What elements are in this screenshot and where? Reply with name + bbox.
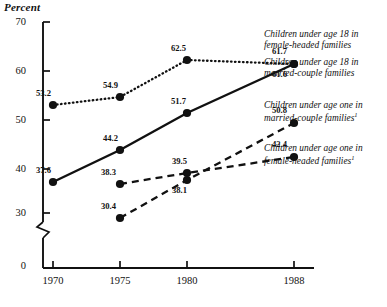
legend-label-line1: Children under age 18 in: [264, 57, 358, 67]
x-axis-ticks: [53, 261, 294, 268]
legend-item-children-one-married-couple: Children under age one in married-couple…: [264, 100, 382, 124]
point-label-1975-children-18-female-headed: 54.9: [103, 80, 118, 90]
legend-item-children-18-married-couple: Children under age 18 in married-couple …: [264, 57, 382, 79]
y-axis: [37, 22, 49, 268]
legend-label-line1: Children under age 18 in: [264, 29, 358, 39]
point-label-1975-children-18-married-couple: 44.2: [103, 133, 118, 143]
legend-label-line1: Children under age one in: [264, 100, 363, 110]
point-label-1970-children-18-female-headed: 53.2: [36, 88, 51, 98]
point-label-1980-children-18-female-headed: 62.5: [171, 43, 186, 53]
point-label-1980-children-one-female-headed: 39.5: [172, 156, 187, 166]
legend-label-line2: female-headed families: [264, 156, 351, 166]
legend-label-line2: married-couple families: [264, 68, 354, 78]
point-label-1980-children-one-married-couple: 38.1: [172, 185, 187, 195]
point-label-1975-children-one-married-couple: 30.4: [101, 201, 116, 211]
point-label-1975-children-one-female-headed: 38.3: [101, 167, 116, 177]
legend-label-line2: married-couple families: [264, 113, 354, 123]
legend-footnote-marker: 1: [351, 154, 354, 161]
legend-label-line1: Children under age one in: [264, 143, 363, 153]
legend-footnote-marker: 1: [354, 111, 357, 118]
legend-item-children-18-female-headed: Children under age 18 in female-headed f…: [264, 29, 382, 51]
legend-item-children-one-female-headed: Children under age one in female-headed …: [264, 143, 382, 167]
y-axis-ticks: [43, 22, 50, 213]
point-label-1970-children-18-married-couple: 37.6: [36, 165, 51, 175]
chart-container: Percent 70 60 50 40 30 0 1970 1975 1980 …: [0, 0, 387, 307]
point-label-1980-children-18-married-couple: 51.7: [171, 96, 186, 106]
legend-label-line2: female-headed families: [264, 40, 351, 50]
